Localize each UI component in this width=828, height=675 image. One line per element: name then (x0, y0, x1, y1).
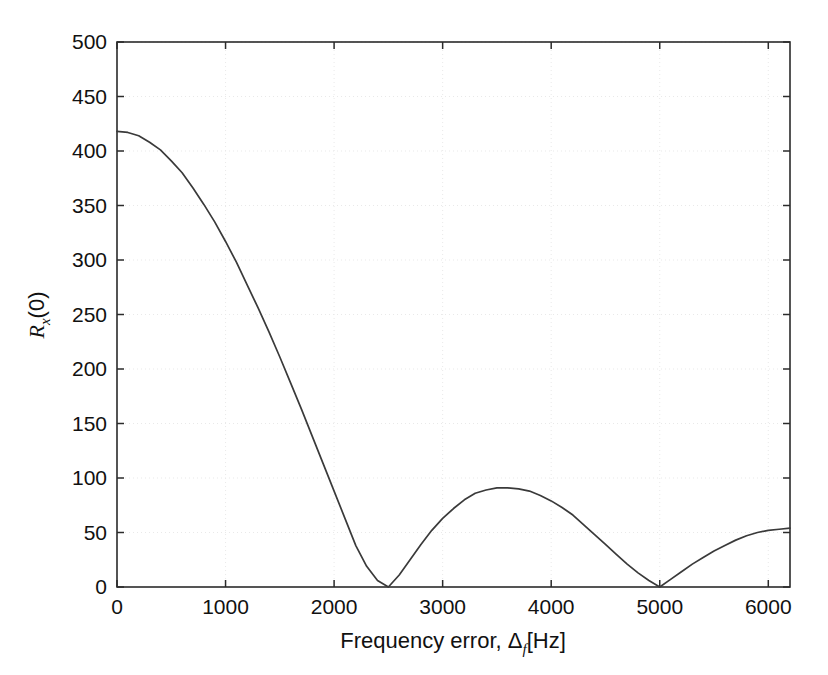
x-tick-label: 3000 (419, 595, 466, 618)
chart-canvas: 0100020003000400050006000 05010015020025… (0, 0, 828, 675)
y-axis-title: Rx(0) (24, 291, 53, 339)
y-tick-label: 200 (72, 357, 107, 380)
y-tick-label: 150 (72, 412, 107, 435)
y-axis-title-suffix: (0) (24, 291, 49, 318)
y-tick-label: 450 (72, 85, 107, 108)
x-axis-title-prefix: Frequency error, (340, 628, 508, 653)
x-tick-label: 5000 (636, 595, 683, 618)
y-axis-tick-labels: 050100150200250300350400450500 (72, 30, 107, 598)
x-tick-label: 4000 (528, 595, 575, 618)
x-axis-tick-labels: 0100020003000400050006000 (111, 595, 791, 618)
y-tick-label: 350 (72, 194, 107, 217)
x-tick-label: 2000 (311, 595, 358, 618)
y-tick-label: 0 (95, 575, 107, 598)
x-tick-label: 6000 (745, 595, 792, 618)
y-tick-label: 50 (84, 521, 107, 544)
y-axis-title-main: R (24, 325, 49, 340)
x-axis-title-suffix: [Hz] (527, 628, 566, 653)
figure-container: 0100020003000400050006000 05010015020025… (0, 0, 828, 675)
y-tick-label: 250 (72, 303, 107, 326)
y-tick-label: 400 (72, 139, 107, 162)
y-tick-label: 500 (72, 30, 107, 53)
x-axis-title: Frequency error, Δf[Hz] (340, 628, 566, 657)
x-tick-label: 0 (111, 595, 123, 618)
y-tick-label: 100 (72, 466, 107, 489)
y-tick-label: 300 (72, 248, 107, 271)
x-axis-title-symbol: Δ (508, 628, 523, 653)
x-tick-label: 1000 (202, 595, 249, 618)
